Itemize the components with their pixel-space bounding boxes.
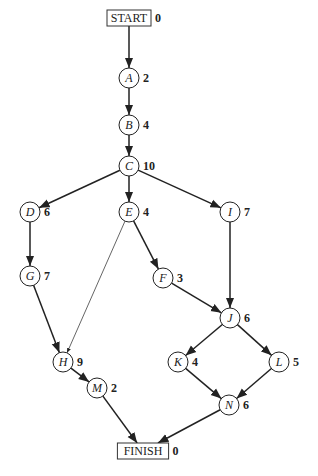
node-label: J bbox=[227, 311, 233, 325]
edge-f-to-j bbox=[172, 283, 222, 313]
duration-label: 10 bbox=[143, 159, 155, 173]
node-label: G bbox=[26, 269, 35, 283]
duration-label: 4 bbox=[143, 118, 149, 132]
node-a: A2 bbox=[119, 68, 149, 88]
edge-n-to-finish bbox=[158, 410, 220, 443]
node-c: C10 bbox=[119, 156, 155, 176]
nodes-layer: START0A2B4C10D6E4I7G7F3J6H9K4L5M2N6FINIS… bbox=[20, 10, 299, 459]
edge-e-to-h bbox=[67, 221, 125, 353]
node-d: D6 bbox=[20, 202, 50, 222]
duration-label: 3 bbox=[177, 271, 183, 285]
node-f: F3 bbox=[153, 268, 183, 288]
node-label: F bbox=[158, 271, 167, 285]
node-start: START0 bbox=[107, 10, 161, 26]
duration-label: 4 bbox=[192, 355, 198, 369]
node-h: H9 bbox=[53, 352, 83, 372]
edge-e-to-f bbox=[134, 221, 159, 269]
node-label: C bbox=[125, 159, 134, 173]
duration-label: 7 bbox=[244, 205, 250, 219]
node-label: D bbox=[25, 205, 35, 219]
edge-m-to-finish bbox=[103, 396, 137, 443]
duration-label: 4 bbox=[143, 205, 149, 219]
duration-label: 7 bbox=[44, 269, 50, 283]
duration-label: 6 bbox=[44, 205, 50, 219]
node-label: B bbox=[125, 118, 133, 132]
duration-label: 6 bbox=[243, 398, 249, 412]
edge-c-to-i bbox=[138, 170, 221, 208]
node-b: B4 bbox=[119, 115, 149, 135]
duration-label: 9 bbox=[77, 355, 83, 369]
duration-label: 2 bbox=[111, 381, 117, 395]
node-i: I7 bbox=[220, 202, 250, 222]
network-diagram: START0A2B4C10D6E4I7G7F3J6H9K4L5M2N6FINIS… bbox=[0, 0, 318, 476]
edge-g-to-h bbox=[34, 285, 60, 352]
duration-label: 0 bbox=[155, 11, 161, 25]
node-finish: FINISH0 bbox=[117, 443, 178, 459]
edge-j-to-l bbox=[237, 325, 271, 356]
node-label: E bbox=[124, 205, 133, 219]
node-label: M bbox=[91, 381, 103, 395]
node-l: L5 bbox=[269, 352, 299, 372]
node-label: FINISH bbox=[124, 444, 163, 458]
node-n: N6 bbox=[219, 395, 249, 415]
edge-j-to-k bbox=[186, 324, 223, 355]
node-label: A bbox=[124, 71, 133, 85]
node-j: J6 bbox=[220, 308, 250, 328]
node-k: K4 bbox=[168, 352, 198, 372]
edge-h-to-m bbox=[71, 368, 89, 382]
node-label: H bbox=[58, 355, 69, 369]
duration-label: 0 bbox=[173, 444, 179, 458]
node-m: M2 bbox=[87, 378, 117, 398]
duration-label: 5 bbox=[293, 355, 299, 369]
edge-l-to-n bbox=[237, 369, 272, 399]
node-g: G7 bbox=[20, 266, 50, 286]
node-label: L bbox=[275, 355, 283, 369]
duration-label: 2 bbox=[143, 71, 149, 85]
edges-layer bbox=[30, 26, 272, 443]
edge-c-to-d bbox=[39, 170, 120, 208]
node-label: START bbox=[111, 11, 148, 25]
node-label: N bbox=[224, 398, 234, 412]
duration-label: 6 bbox=[244, 311, 250, 325]
edge-k-to-n bbox=[186, 368, 222, 398]
node-label: K bbox=[173, 355, 183, 369]
node-e: E4 bbox=[119, 202, 149, 222]
